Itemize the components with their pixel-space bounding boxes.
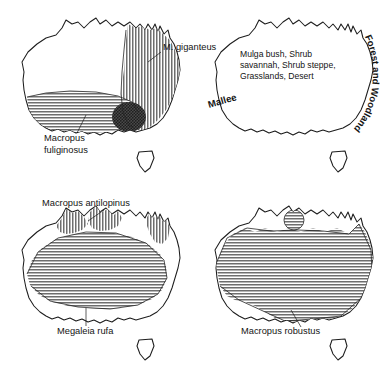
label-macropus-fuliginosus-line2: fuliginosus [44,145,88,155]
label-arid-zone-line1: Mulga bush, Shrub [240,49,312,59]
tasmania-outline [330,151,347,172]
tasmania-outline [137,339,154,360]
label-macropus-fuliginosus-line1: Macropus [44,133,85,143]
tasmania-outline [330,339,347,360]
label-arid-zone-line3: Grasslands, Desert [240,71,314,81]
map-panel-kangaroo-east-west: M. giganteus Macropus fuliginosus [0,0,193,187]
tasmania-outline [137,151,154,172]
label-arid-zone-line2: savannah, Shrub steppe, [240,60,336,70]
label-macropus-antilopinus: Macropus antilopinus [42,198,130,208]
distribution-map-figure: M. giganteus Macropus fuliginosus [0,0,386,375]
map-panel-vegetation: Mulga bush, Shrub savannah, Shrub steppe… [193,0,386,187]
label-megaleia-rufa: Megaleia rufa [57,326,114,336]
label-macropus-robustus: Macropus robustus [241,326,320,336]
range-overlap-blob-fill [112,102,146,132]
map-panel-antilopinus-rufa: Macropus antilopinus Megaleia rufa [0,188,193,375]
map-panel-robustus: Macropus robustus [193,188,386,375]
